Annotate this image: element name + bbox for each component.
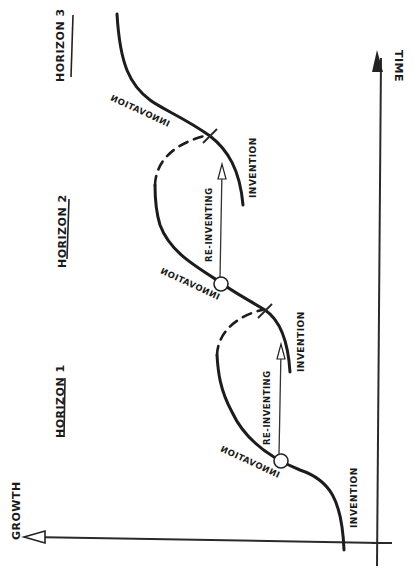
horizon-3-label: HORIZON 3 (54, 8, 67, 82)
time-axis-label: TIME (392, 50, 405, 82)
h1-reinvent-arrowhead-icon (277, 344, 285, 359)
horizon-1-label-group: HORIZON 1 (54, 364, 67, 438)
growth-axis-label: GROWTH (10, 481, 23, 540)
h2-reinvent-arrowhead-icon (218, 164, 226, 179)
horizon-1-dashed-extension (217, 310, 262, 355)
horizon-2-reinventing-arrow (214, 164, 228, 291)
h2-reinvent-circle-icon (214, 277, 228, 291)
three-horizons-diagram: GROWTH TIME HORIZON 3 HORIZON 2 HORIZON … (0, 0, 413, 572)
horizon-2-label-group: HORIZON 2 (56, 194, 69, 268)
h3-innovation-label: INNOVATION (109, 92, 172, 128)
h1-innovation-label: INNOVATION (219, 443, 282, 479)
horizon-3-label-group: HORIZON 3 (54, 8, 73, 82)
growth-arrowhead-icon (24, 531, 45, 543)
horizon-1-reinventing-arrow (274, 344, 288, 468)
h1-invention-label: INVENTION (349, 467, 359, 528)
horizon-2-dashed-extension (155, 135, 208, 185)
h2-innovation-label: INNOVATION (159, 265, 222, 301)
h1-reinventing-label: RE-INVENTING (262, 370, 272, 445)
h2-reinventing-label: RE-INVENTING (204, 187, 214, 262)
growth-axis (24, 531, 380, 543)
time-axis (372, 50, 383, 566)
h3-invention-label: INVENTION (248, 137, 258, 198)
h2-invention-label: INVENTION (296, 311, 306, 372)
h1-reinvent-circle-icon (274, 454, 288, 468)
